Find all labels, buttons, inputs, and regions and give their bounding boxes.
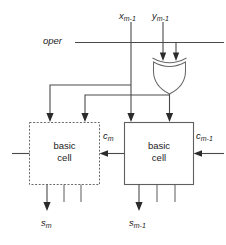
left-basic-cell-line2: cell [30,152,100,164]
x-branch-to-left-cell [50,85,131,117]
left-cell-input2-arrowhead [81,113,88,122]
y-input-label: ym-1 [152,11,169,21]
oper-label: oper [43,36,62,46]
xor-output-arrowhead [166,113,173,122]
right-basic-cell-label: basic cell [125,140,194,164]
x-input-arrowhead [127,113,134,122]
right-basic-cell-line2: cell [125,152,194,164]
right-sum-output-label: sm-1 [129,218,146,228]
left-basic-cell-label: basic cell [30,140,100,164]
left-cell-input1-arrowhead [46,113,53,122]
carry-in-label: cm-1 [196,131,213,141]
left-basic-cell-line1: basic [30,140,100,152]
carry-out-arrowhead [100,150,109,157]
oper-tap-arrowhead [173,53,179,62]
y-input-arrowhead [160,53,166,62]
xor-branch-to-left-cell [85,95,170,117]
right-cell-output-arrowhead [135,202,142,211]
left-sum-output-label: sm [41,218,52,228]
diagram-canvas: xm-1 ym-1 oper basic cell basic cell cm … [0,0,226,245]
left-cell-output-arrowhead [43,202,50,211]
xor-gate-body [154,62,186,94]
carry-out-label: cm [103,131,114,141]
carry-in-arrowhead [194,150,203,157]
right-basic-cell-line1: basic [125,140,194,152]
x-input-label: xm-1 [119,11,136,21]
xor-gate-input-arc [153,58,187,63]
circuit-schematic [0,0,226,245]
